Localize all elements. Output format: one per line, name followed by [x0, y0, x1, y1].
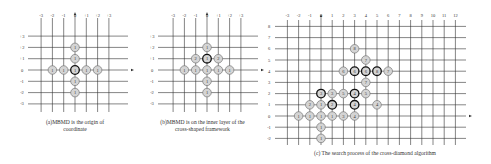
y-axis-label: +3 — [20, 34, 26, 39]
y-axis-label: 5 — [268, 58, 271, 63]
caption-c: (c) The search process of the cross-diam… — [300, 150, 450, 157]
x-axis-label: 9 — [421, 13, 424, 18]
y-axis-label: -2 — [20, 90, 24, 95]
x-axis-label: -3 — [171, 13, 175, 18]
x-axis-label: 10 — [431, 13, 436, 18]
search-point-label: 1 — [183, 68, 185, 73]
x-axis-label: +3 — [239, 13, 245, 18]
caption-b-line2: cross-shaped framework — [140, 126, 265, 133]
y-axis-label: 3 — [268, 80, 271, 85]
y-axis-label: 1 — [268, 102, 270, 107]
x-axis-label: 3 — [353, 13, 356, 18]
search-point-label: 1 — [331, 114, 333, 119]
y-axis-label: +2 — [20, 45, 25, 50]
search-point-label: 1 — [74, 56, 76, 61]
y-axis-label: -1 — [150, 79, 154, 84]
diagram-canvas: -3-2-10+1+2+3+3+2+10-1-2-3111111111-3-2-… — [0, 0, 491, 164]
y-axis-label: 6 — [268, 46, 271, 51]
search-point-label: 2 — [331, 102, 333, 107]
search-point-label: 1 — [51, 68, 53, 73]
x-axis-label: -2 — [183, 13, 187, 18]
y-axis-label: 8 — [268, 24, 271, 29]
x-axis-arrow-icon — [469, 115, 472, 117]
x-axis-label: 11 — [442, 13, 446, 18]
y-axis-label: 0 — [268, 114, 271, 119]
search-point-label: 1 — [206, 45, 208, 50]
search-point-label: 1 — [74, 90, 76, 95]
search-point-label: 1 — [206, 56, 208, 61]
x-axis-label: 6 — [387, 13, 390, 18]
y-axis-label: 0 — [151, 68, 154, 73]
search-point-label: 1 — [320, 114, 322, 119]
search-point-label: 1 — [320, 136, 322, 141]
x-axis-label: -2 — [51, 13, 55, 18]
search-point-label: 1 — [96, 68, 98, 73]
x-axis-label: -1 — [62, 13, 66, 18]
y-axis-label: -3 — [20, 101, 24, 106]
x-axis-arrow-icon — [261, 69, 264, 71]
x-axis-label: 4 — [365, 13, 368, 18]
x-axis-label: -1 — [308, 13, 312, 18]
x-axis-label: +1 — [216, 13, 221, 18]
x-axis-label: 2 — [342, 13, 344, 18]
x-axis-label: 8 — [409, 13, 412, 18]
search-point-label: 1 — [228, 68, 230, 73]
x-axis-label: -3 — [286, 13, 290, 18]
search-point-label: 1 — [63, 68, 65, 73]
y-axis-label: -2 — [150, 90, 154, 95]
x-axis-label: 5 — [376, 13, 379, 18]
search-point-label: 1 — [320, 102, 322, 107]
x-axis-label: +1 — [84, 13, 89, 18]
y-axis-label: -1 — [20, 79, 24, 84]
search-point-label: 1 — [74, 79, 76, 84]
x-axis-arrow-icon — [131, 69, 134, 71]
search-point-label: 1 — [206, 90, 208, 95]
x-axis-label: 12 — [453, 13, 458, 18]
x-axis-label: +2 — [95, 13, 100, 18]
x-axis-label: +3 — [107, 13, 113, 18]
y-axis-label: +3 — [150, 34, 156, 39]
y-axis-label: +1 — [20, 56, 25, 61]
y-axis-label: 7 — [268, 35, 271, 40]
x-axis-label: +2 — [227, 13, 232, 18]
search-point-label: 1 — [85, 68, 87, 73]
x-axis-label: -1 — [194, 13, 198, 18]
search-point-label: 1 — [206, 68, 208, 73]
search-point-label: 1 — [206, 79, 208, 84]
y-axis-label: 2 — [268, 91, 270, 96]
search-point-label: 1 — [74, 45, 76, 50]
y-axis-label: 4 — [268, 69, 271, 74]
y-axis-label: 0 — [21, 68, 24, 73]
caption-b: (b)MBMD is on the inner layer of the cro… — [140, 119, 265, 132]
caption-a-line2: coordinate — [20, 126, 130, 133]
search-point-label: 1 — [320, 125, 322, 130]
x-axis-label: 7 — [398, 13, 401, 18]
y-axis-label: +2 — [150, 45, 155, 50]
search-point-label: 2 — [217, 56, 219, 61]
search-point-label: 2 — [195, 56, 197, 61]
search-point-label: 1 — [195, 68, 197, 73]
x-axis-label: -2 — [297, 13, 301, 18]
y-axis-label: -2 — [267, 136, 271, 141]
search-point-label: 1 — [297, 114, 299, 119]
x-axis-label: 1 — [331, 13, 333, 18]
search-point-label: 1 — [217, 68, 219, 73]
y-axis-label: +1 — [150, 56, 155, 61]
search-point-label: 1 — [309, 114, 311, 119]
y-axis-label: -1 — [267, 125, 271, 130]
y-axis-label: -3 — [150, 101, 154, 106]
caption-a: (a)MBMD is the origin of coordinate — [20, 119, 130, 132]
caption-c-line1: (c) The search process of the cross-diam… — [300, 150, 450, 157]
search-point-label: 2 — [309, 102, 311, 107]
search-point-label: 1 — [74, 68, 76, 73]
x-axis-label: -3 — [39, 13, 43, 18]
